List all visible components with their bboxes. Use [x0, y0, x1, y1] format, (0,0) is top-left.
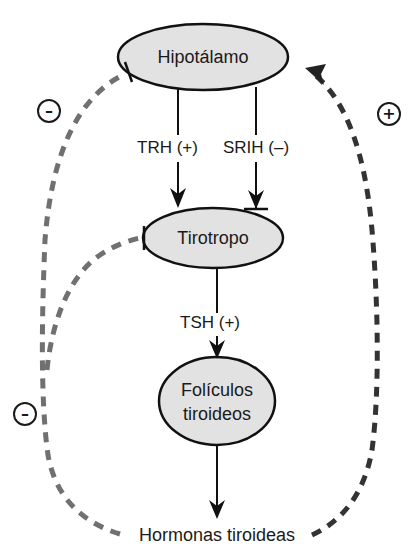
thyrotrope-label: Tirotropo: [143, 226, 283, 250]
srih-label: SRIH (–): [223, 138, 289, 158]
positive-sign-icon: +: [377, 102, 401, 126]
follicles-label-line2: tiroideos: [159, 402, 275, 426]
hormones-label: Hormonas tiroideas: [122, 523, 312, 547]
trh-label: TRH (+): [137, 138, 198, 158]
negative-sign-icon: –: [13, 402, 37, 426]
positive-feedback-hypothalamus: [312, 75, 377, 535]
negative-feedback-thyrotrope: [47, 238, 140, 370]
negative-feedback-hypothalamus: [42, 74, 125, 534]
hypothalamus-label: Hipotálamo: [118, 45, 288, 69]
tsh-label: TSH (+): [180, 313, 240, 333]
thyroid-axis-diagram: [0, 0, 413, 551]
negative-sign-icon: –: [37, 99, 61, 123]
positive-feedback-arrowhead-icon: [305, 64, 326, 85]
follicles-label-line1: Folículos: [159, 378, 275, 402]
